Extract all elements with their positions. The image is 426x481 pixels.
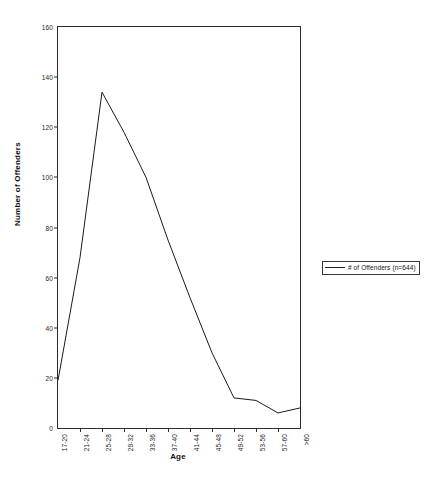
x-tick-label-37-40: 37-40 bbox=[171, 434, 178, 451]
x-tick-mark-6 bbox=[190, 428, 191, 432]
chart-legend: # of Offenders (n=644) bbox=[322, 261, 420, 275]
x-axis-title: Age bbox=[57, 452, 299, 461]
x-tick-mark-4 bbox=[146, 428, 147, 432]
y-tick-mark-120 bbox=[54, 127, 58, 128]
x-tick-label->60: >60 bbox=[303, 434, 310, 445]
x-tick-label-21-24: 21-24 bbox=[83, 434, 90, 451]
x-tick-label-45-48: 45-48 bbox=[215, 434, 222, 451]
x-tick-mark-2 bbox=[102, 428, 103, 432]
x-tick-label-33-36: 33-36 bbox=[149, 434, 156, 451]
x-tick-mark-8 bbox=[234, 428, 235, 432]
y-tick-mark-20 bbox=[54, 377, 58, 378]
chart-figure: Number of Offenders 02040608010012014016… bbox=[0, 0, 426, 481]
plot-area: 02040608010012014016017-2021-2425-2829-3… bbox=[57, 26, 301, 429]
series-line-0 bbox=[58, 92, 300, 413]
x-tick-label-53-56: 53-56 bbox=[259, 434, 266, 451]
y-axis-title: Number of Offenders bbox=[13, 142, 22, 226]
x-tick-mark-7 bbox=[212, 428, 213, 432]
y-tick-mark-140 bbox=[54, 77, 58, 78]
legend-line-swatch bbox=[325, 267, 345, 268]
y-tick-mark-100 bbox=[54, 177, 58, 178]
legend-label-offenders: # of Offenders (n=644) bbox=[348, 264, 416, 271]
y-tick-mark-60 bbox=[54, 277, 58, 278]
y-tick-label-160: 160 bbox=[42, 24, 58, 31]
x-tick-label-41-44: 41-44 bbox=[193, 434, 200, 451]
x-tick-label-57-60: 57-60 bbox=[281, 434, 288, 451]
x-tick-mark-9 bbox=[256, 428, 257, 432]
data-line-series bbox=[58, 27, 300, 428]
x-tick-mark-1 bbox=[80, 428, 81, 432]
x-tick-label-49-52: 49-52 bbox=[237, 434, 244, 451]
y-tick-mark-40 bbox=[54, 327, 58, 328]
y-tick-label-0: 0 bbox=[49, 425, 58, 432]
x-tick-label-25-28: 25-28 bbox=[105, 434, 112, 451]
x-tick-label-29-32: 29-32 bbox=[127, 434, 134, 451]
x-tick-label-17-20: 17-20 bbox=[61, 434, 68, 451]
x-tick-mark-3 bbox=[124, 428, 125, 432]
x-tick-mark-10 bbox=[278, 428, 279, 432]
x-tick-mark-5 bbox=[168, 428, 169, 432]
y-tick-mark-80 bbox=[54, 227, 58, 228]
